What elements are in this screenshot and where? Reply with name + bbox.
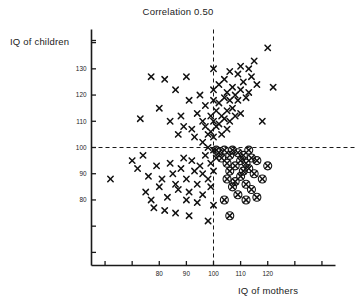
y-tick-label: 100 — [76, 144, 87, 151]
x-marker — [197, 163, 202, 168]
x-marker — [154, 163, 159, 168]
x-marker — [216, 121, 221, 126]
x-marker — [224, 108, 229, 113]
circled-x-marker — [247, 185, 255, 193]
x-marker — [241, 79, 246, 84]
x-marker — [219, 132, 224, 137]
x-tick-label: 120 — [262, 270, 273, 277]
x-marker — [216, 100, 221, 105]
x-marker — [148, 197, 153, 202]
x-marker — [170, 171, 175, 176]
x-marker — [200, 192, 205, 197]
x-marker — [138, 116, 143, 121]
x-marker — [224, 126, 229, 131]
x-marker — [186, 189, 191, 194]
x-marker — [270, 84, 275, 89]
x-marker — [205, 218, 210, 223]
circled-x-marker — [253, 193, 261, 201]
plot-canvas: 80901001101208090100110120130 — [0, 0, 356, 302]
x-marker — [246, 66, 251, 71]
x-marker — [227, 69, 232, 74]
circled-x-marker — [264, 162, 272, 170]
x-marker — [227, 98, 232, 103]
x-marker — [227, 119, 232, 124]
x-marker — [192, 134, 197, 139]
y-tick-label: 90 — [79, 170, 87, 177]
x-marker — [254, 82, 259, 87]
x-marker — [195, 111, 200, 116]
x-marker — [208, 161, 213, 166]
x-marker — [173, 87, 178, 92]
y-tick-label: 80 — [79, 196, 87, 203]
x-marker — [230, 84, 235, 89]
x-marker — [173, 210, 178, 215]
x-marker — [235, 71, 240, 76]
x-marker — [148, 74, 153, 79]
circled-x-marker — [250, 170, 258, 178]
x-marker — [178, 166, 183, 171]
circled-x-marker — [220, 196, 228, 204]
x-marker — [195, 182, 200, 187]
x-marker — [143, 189, 148, 194]
y-tick-label: 130 — [76, 65, 87, 72]
x-marker — [195, 200, 200, 205]
x-marker — [238, 111, 243, 116]
x-marker — [214, 108, 219, 113]
x-marker — [186, 98, 191, 103]
x-marker — [135, 166, 140, 171]
circled-x-marker — [234, 191, 242, 199]
x-marker — [222, 77, 227, 82]
x-marker — [222, 116, 227, 121]
x-tick-label: 90 — [183, 270, 191, 277]
x-marker — [146, 174, 151, 179]
circled-x-marker — [223, 159, 231, 167]
x-marker — [238, 87, 243, 92]
x-marker — [260, 119, 265, 124]
x-marker — [108, 176, 113, 181]
x-tick-label: 80 — [156, 270, 164, 277]
x-marker — [216, 82, 221, 87]
scatter-plot-figure: Correlation 0.50 IQ of children IQ of mo… — [0, 0, 356, 302]
x-marker — [205, 176, 210, 181]
y-tick-label: 110 — [76, 118, 87, 125]
x-marker — [189, 126, 194, 131]
x-marker — [200, 171, 205, 176]
x-marker — [176, 132, 181, 137]
x-marker — [208, 184, 213, 189]
x-marker — [178, 113, 183, 118]
x-marker — [181, 155, 186, 160]
circled-x-marker — [223, 175, 231, 183]
x-marker — [167, 119, 172, 124]
x-marker — [140, 153, 145, 158]
y-tick-label: 120 — [76, 91, 87, 98]
x-marker — [184, 197, 189, 202]
x-marker — [192, 168, 197, 173]
x-marker — [157, 184, 162, 189]
x-tick-label: 100 — [208, 270, 219, 277]
x-marker — [162, 77, 167, 82]
x-marker — [159, 176, 164, 181]
x-marker — [129, 158, 134, 163]
x-marker — [203, 153, 208, 158]
circled-x-marker — [242, 196, 250, 204]
x-marker — [265, 45, 270, 50]
x-marker — [167, 161, 172, 166]
x-marker — [251, 58, 256, 63]
x-marker — [151, 205, 156, 210]
x-marker — [203, 103, 208, 108]
x-marker — [197, 92, 202, 97]
x-marker — [165, 195, 170, 200]
data-points-group — [108, 45, 276, 223]
x-marker — [200, 140, 205, 145]
x-marker — [230, 105, 235, 110]
x-marker — [157, 105, 162, 110]
circled-x-marker — [226, 212, 234, 220]
circled-x-marker — [258, 175, 266, 183]
x-marker — [184, 176, 189, 181]
x-marker — [189, 158, 194, 163]
x-marker — [238, 64, 243, 69]
x-tick-label: 110 — [236, 270, 247, 277]
x-marker — [184, 74, 189, 79]
reference-lines-group — [92, 30, 356, 266]
x-marker — [186, 213, 191, 218]
